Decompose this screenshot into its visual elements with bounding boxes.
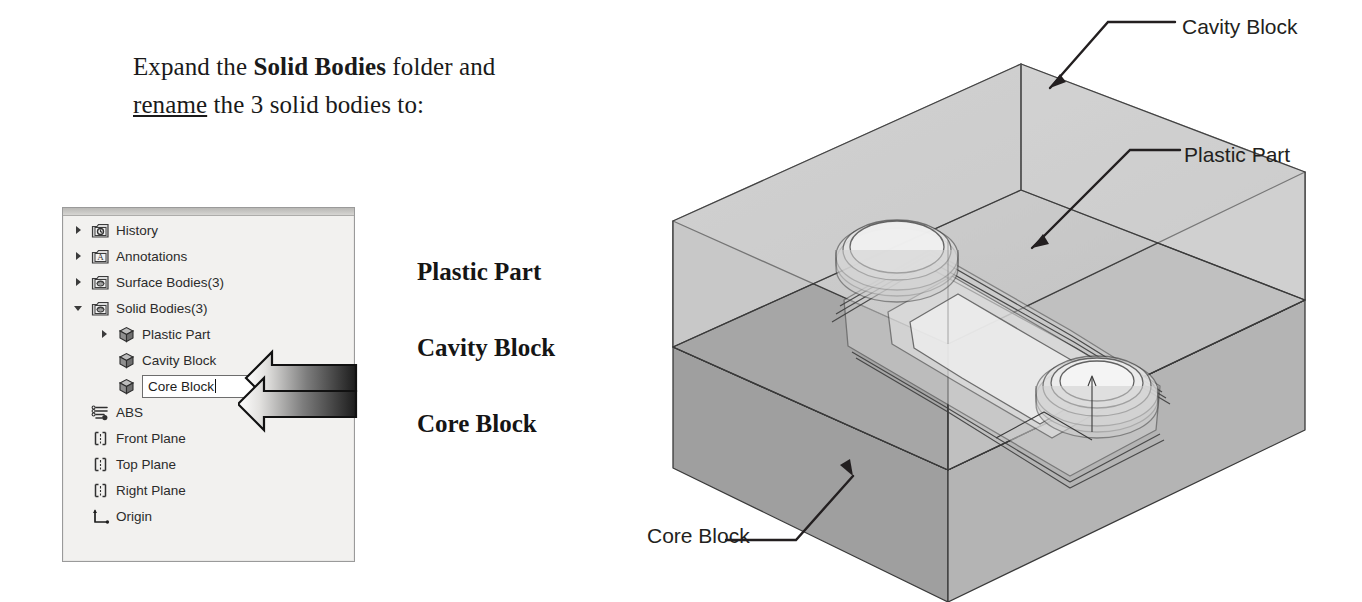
annotations-folder-icon: A	[91, 247, 110, 266]
origin-icon	[91, 507, 110, 526]
solid-body-cube-icon	[117, 377, 136, 396]
tree-row-plastic-part[interactable]: Plastic Part	[63, 321, 354, 347]
plane-icon	[91, 429, 110, 448]
history-folder-icon	[91, 221, 110, 240]
tree-row-origin[interactable]: Origin	[63, 503, 354, 529]
tree-row-label: Surface Bodies(3)	[116, 275, 224, 290]
plane-icon	[91, 481, 110, 500]
tree-row-surface-bodies-3[interactable]: Surface Bodies(3)	[63, 269, 354, 295]
tree-row-label: Top Plane	[116, 457, 176, 472]
chevron-right-icon[interactable]	[73, 224, 85, 236]
mold-block-illustration	[600, 0, 1362, 602]
solid-body-cube-icon	[117, 351, 136, 370]
instruction-rename-underline: rename	[133, 91, 207, 118]
body-name-plastic-part: Plastic Part	[417, 258, 541, 286]
solid-body-cube-icon	[117, 325, 136, 344]
twisty-spacer	[99, 380, 111, 392]
chevron-right-icon[interactable]	[73, 250, 85, 262]
twisty-spacer	[99, 354, 111, 366]
instruction-line1-post: folder and	[386, 53, 495, 80]
chevron-down-icon[interactable]	[73, 302, 85, 314]
surface-bodies-folder-icon	[91, 273, 110, 292]
tree-row-label: ABS	[116, 405, 143, 420]
tree-row-label: Plastic Part	[142, 327, 210, 342]
twisty-spacer	[73, 510, 85, 522]
svg-text:A: A	[97, 252, 104, 262]
callout-label-plastic-part: Plastic Part	[1184, 143, 1290, 167]
callout-label-cavity-block: Cavity Block	[1182, 15, 1298, 39]
twisty-spacer	[73, 432, 85, 444]
body-name-core-block: Core Block	[417, 410, 537, 438]
chevron-right-icon[interactable]	[73, 276, 85, 288]
material-icon	[91, 403, 110, 422]
tree-row-right-plane[interactable]: Right Plane	[63, 477, 354, 503]
body-name-cavity-block: Cavity Block	[417, 334, 555, 362]
tree-row-label: History	[116, 223, 158, 238]
tree-row-label: Origin	[116, 509, 152, 524]
tree-row-label: Right Plane	[116, 483, 186, 498]
tree-row-history[interactable]: History	[63, 217, 354, 243]
twisty-spacer	[73, 406, 85, 418]
text-cursor	[215, 379, 216, 393]
twisty-spacer	[73, 484, 85, 496]
tree-row-label: Annotations	[116, 249, 187, 264]
plane-icon	[91, 455, 110, 474]
instruction-line1-pre: Expand the	[133, 53, 254, 80]
model-3d-viewport[interactable]	[600, 0, 1362, 602]
instruction-text: Expand the Solid Bodies folder and renam…	[133, 48, 553, 124]
rename-input-value: Core Block	[148, 379, 214, 394]
instruction-solid-bodies-bold: Solid Bodies	[254, 53, 387, 80]
cavity-leader-line	[1050, 22, 1175, 88]
callout-label-core-block: Core Block	[647, 524, 750, 548]
tree-row-solid-bodies-3[interactable]: Solid Bodies(3)	[63, 295, 354, 321]
twisty-spacer	[73, 458, 85, 470]
tree-row-label: Solid Bodies(3)	[116, 301, 208, 316]
chevron-right-icon[interactable]	[99, 328, 111, 340]
panel-title-strip	[63, 208, 354, 216]
tree-row-annotations[interactable]: AAnnotations	[63, 243, 354, 269]
rename-callout-arrows	[238, 346, 388, 466]
tree-row-label: Front Plane	[116, 431, 186, 446]
instruction-line2-post: the 3 solid bodies to:	[207, 91, 424, 118]
tree-row-label: Cavity Block	[142, 353, 216, 368]
solid-bodies-folder-icon	[91, 299, 110, 318]
